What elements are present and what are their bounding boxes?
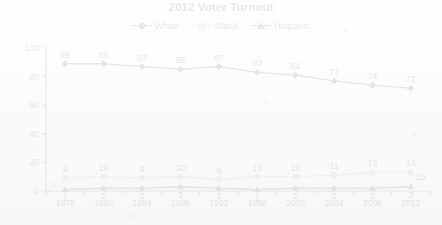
legend-label-white: White: [155, 20, 179, 31]
data-label: 2: [370, 191, 375, 201]
data-point-marker: [139, 175, 144, 180]
data-label: 74: [368, 71, 378, 81]
series-end-label: 10: [416, 172, 426, 182]
data-label: 89: [60, 50, 70, 60]
data-label: 2: [293, 191, 298, 201]
data-point-marker: [216, 177, 221, 182]
data-label: 1: [255, 193, 260, 203]
y-axis-tick-label: 80: [30, 72, 40, 82]
square-marker-icon: [192, 21, 212, 30]
data-label: 72: [406, 74, 416, 84]
data-label: 10: [99, 163, 109, 173]
data-point-marker: [254, 69, 261, 76]
data-label: 10: [176, 163, 186, 173]
data-label: 10: [252, 163, 262, 173]
data-point-marker: [215, 63, 222, 70]
data-label: 85: [176, 55, 186, 65]
data-point-marker: [63, 175, 68, 180]
data-label: 9: [140, 164, 145, 174]
data-point-marker: [100, 60, 107, 67]
data-label: 83: [252, 58, 262, 68]
data-label: 2: [101, 191, 106, 201]
page-title: 2012 Voter Turnout: [0, 1, 442, 13]
y-axis-tick-label: 0: [34, 186, 39, 196]
data-point-marker: [62, 60, 69, 67]
line-chart-svg: 020406080100 197619801984198819921996200…: [0, 0, 442, 225]
series-layer: [62, 60, 414, 192]
legend-item-black[interactable]: Black: [192, 20, 238, 31]
data-point-marker: [369, 82, 376, 89]
data-label: 81: [291, 61, 301, 71]
data-point-marker: [293, 174, 298, 179]
triangle-marker-icon: [251, 21, 271, 30]
y-axis-tick-label: 20: [30, 157, 40, 167]
data-point-marker: [407, 85, 414, 92]
data-label: 1: [63, 193, 68, 203]
legend-item-white[interactable]: White: [132, 20, 179, 31]
diamond-marker-icon: [132, 21, 152, 30]
data-label: 3: [408, 190, 413, 200]
data-point-marker: [177, 66, 184, 73]
data-point-marker: [408, 170, 413, 175]
legend-label-black: Black: [215, 20, 238, 31]
plot-area: 020406080100 197619801984198819921996200…: [0, 0, 442, 225]
data-labels-layer: 8989878587838177747291091081010111313122…: [60, 50, 425, 203]
data-label: 2: [216, 191, 221, 201]
data-label: 11: [330, 161, 339, 171]
data-label: 89: [99, 50, 109, 60]
data-point-marker: [331, 77, 338, 84]
legend-label-hispanic: Hispanic: [274, 20, 310, 31]
data-point-marker: [370, 170, 375, 175]
y-axis-tick-label: 60: [30, 100, 40, 110]
data-label: 8: [216, 166, 221, 176]
legend-item-hispanic[interactable]: Hispanic: [251, 20, 310, 31]
y-axis: 020406080100: [25, 43, 46, 196]
chart-page: 2012 Voter Turnout White Black Hispanic …: [0, 0, 442, 225]
series-line-white: [65, 64, 411, 88]
series-line-black: [65, 172, 411, 179]
data-label: 3: [178, 190, 183, 200]
data-label: 87: [214, 53, 224, 63]
data-label: 2: [332, 191, 337, 201]
data-point-marker: [331, 173, 336, 178]
data-label: 13: [406, 158, 416, 168]
data-point-marker: [139, 63, 146, 70]
data-point-marker: [178, 174, 183, 179]
y-axis-tick-label: 40: [30, 129, 40, 139]
series-line-hispanic: [65, 187, 411, 190]
data-label: 2: [140, 191, 145, 201]
data-label: 10: [291, 163, 301, 173]
data-point-marker: [101, 174, 106, 179]
data-label: 87: [137, 53, 147, 63]
data-point-marker: [292, 72, 299, 79]
data-label: 9: [63, 164, 68, 174]
data-label: 13: [368, 158, 378, 168]
data-label: 77: [329, 67, 339, 77]
y-axis-tick-label: 100: [25, 43, 39, 53]
data-point-marker: [255, 174, 260, 179]
chart-legend: White Black Hispanic: [0, 20, 442, 31]
